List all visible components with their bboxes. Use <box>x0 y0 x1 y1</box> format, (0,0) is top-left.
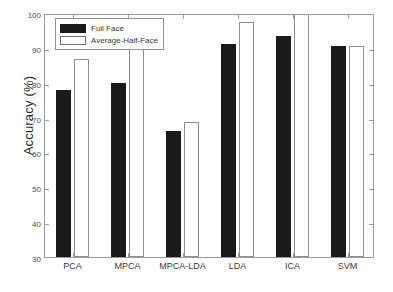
plot-area: 30405060708090100 PCAMPCAMPCA-LDALDAICAS… <box>44 14 374 258</box>
x-tick-mark-top-ica <box>293 15 294 19</box>
bar-mpca-lda-average-half-face <box>184 122 199 257</box>
y-tick-label-50: 50 <box>15 185 41 194</box>
bar-mpca-lda-full-face <box>166 131 181 257</box>
y-tick-mark-right-50 <box>369 189 373 190</box>
y-tick-label-60: 60 <box>15 150 41 159</box>
y-tick-mark-80 <box>45 85 49 86</box>
bar-lda-full-face <box>221 44 236 257</box>
y-tick-mark-right-90 <box>369 50 373 51</box>
x-tick-mark-top-lda <box>238 15 239 19</box>
legend-item-average-half-face: Average-Half-Face <box>60 34 158 46</box>
figure: Accuracy (%) 30405060708090100 PCAMPCAMP… <box>0 0 393 292</box>
bar-pca-full-face <box>56 90 71 257</box>
legend-swatch-icon-full <box>60 24 86 33</box>
bar-svm-average-half-face <box>349 46 364 257</box>
x-tick-mark-mpca <box>128 253 129 257</box>
y-tick-label-40: 40 <box>15 220 41 229</box>
legend-swatch-icon-half <box>60 36 86 45</box>
y-tick-mark-40 <box>45 224 49 225</box>
legend-item-full-face: Full Face <box>60 22 158 34</box>
y-tick-mark-right-80 <box>369 85 373 86</box>
x-tick-mark-top-svm <box>348 15 349 19</box>
x-tick-mark-pca <box>73 253 74 257</box>
y-tick-label-80: 80 <box>15 80 41 89</box>
x-tick-mark-svm <box>348 253 349 257</box>
legend-label: Average-Half-Face <box>91 36 158 45</box>
legend-label: Full Face <box>91 24 124 33</box>
y-tick-mark-70 <box>45 120 49 121</box>
plot-clip <box>45 15 373 257</box>
bar-mpca-full-face <box>111 83 126 257</box>
y-tick-mark-right-40 <box>369 224 373 225</box>
bar-ica-average-half-face <box>294 15 309 257</box>
bar-svm-full-face <box>331 46 346 257</box>
bar-ica-full-face <box>276 36 291 257</box>
x-tick-mark-mpca-lda <box>183 253 184 257</box>
x-tick-label-svm: SVM <box>313 261 383 271</box>
x-tick-mark-lda <box>238 253 239 257</box>
y-tick-mark-right-60 <box>369 154 373 155</box>
y-tick-mark-50 <box>45 189 49 190</box>
y-tick-label-90: 90 <box>15 45 41 54</box>
x-tick-mark-ica <box>293 253 294 257</box>
y-tick-mark-right-70 <box>369 120 373 121</box>
y-tick-label-70: 70 <box>15 115 41 124</box>
y-tick-label-100: 100 <box>15 11 41 20</box>
bar-pca-average-half-face <box>74 59 89 257</box>
bar-lda-average-half-face <box>239 22 254 257</box>
y-tick-mark-90 <box>45 50 49 51</box>
y-tick-mark-60 <box>45 154 49 155</box>
x-tick-mark-top-mpca-lda <box>183 15 184 19</box>
bar-mpca-average-half-face <box>129 38 144 257</box>
legend: Full FaceAverage-Half-Face <box>55 18 164 50</box>
